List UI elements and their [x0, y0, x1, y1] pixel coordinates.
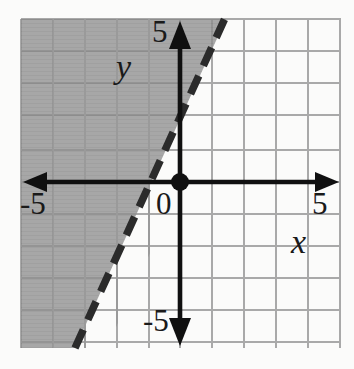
y-axis-tick-label-negative: -5: [143, 305, 169, 336]
origin-label: 0: [156, 188, 172, 219]
y-axis-tick-label-positive: 5: [152, 16, 168, 47]
x-axis-tick-label-positive: 5: [312, 188, 328, 219]
x-axis-tick-label-negative: -5: [20, 188, 46, 219]
axes-layer: [21, 19, 341, 348]
x-axis-variable-label: x: [291, 225, 306, 259]
inequality-graph-figure: 5 -5 -5 5 0 y x: [0, 0, 354, 369]
y-axis-variable-label: y: [116, 50, 131, 84]
plot-area: [21, 19, 341, 348]
origin-dot: [171, 173, 189, 191]
